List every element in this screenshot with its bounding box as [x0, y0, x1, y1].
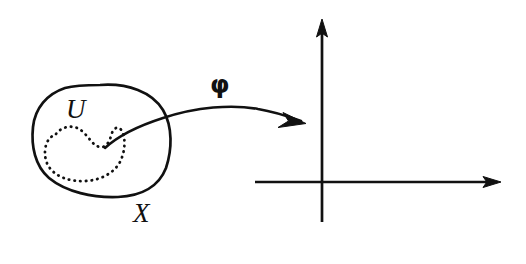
chart-map-label-phi: φ: [210, 72, 230, 97]
open-set-label-U: U: [66, 96, 86, 123]
manifold-label-X: X: [133, 200, 150, 227]
figure-background: [0, 0, 526, 264]
manifold-chart-figure: U X φ: [0, 0, 526, 264]
diagram-canvas: [0, 0, 526, 264]
